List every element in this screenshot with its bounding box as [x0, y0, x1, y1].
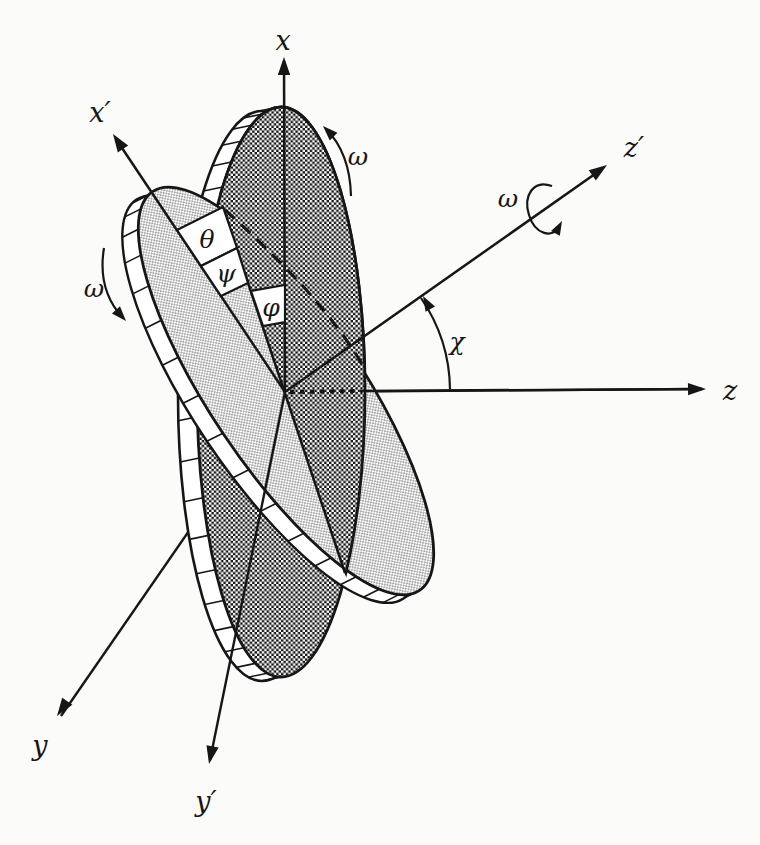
phi-angle-label: φ [262, 293, 280, 322]
z-prime-axis-label: z′ [623, 132, 644, 163]
y-prime-axis-arrowhead [203, 745, 219, 765]
y-prime-axis-label: y′ [194, 786, 216, 817]
x-axis-line [284, 61, 285, 392]
z-axis-line [360, 389, 702, 391]
z-axis-label: z [722, 375, 738, 406]
euler-angle-disk-figure: x x′ z′ z y y′ ω ω ω θ ψ φ χ [0, 0, 760, 845]
x-axis-arrowhead [278, 57, 290, 75]
x-prime-axis-label: x′ [89, 97, 110, 128]
omega-spin-axis-label: ω [498, 184, 518, 213]
x-prime-axis-arrowhead [108, 131, 128, 153]
chi-angle-label: χ [447, 327, 466, 356]
x-axis-label: x [275, 25, 290, 56]
omega-light-disk-label: ω [84, 274, 104, 303]
omega-dark-disk-label: ω [348, 142, 368, 171]
theta-angle-label: θ [199, 225, 214, 254]
figure-canvas: x x′ z′ z y y′ ω ω ω θ ψ φ χ [0, 0, 760, 845]
y-axis-label: y [31, 730, 48, 761]
z-axis-arrowhead [688, 383, 706, 396]
psi-angle-label: ψ [216, 259, 236, 288]
chi-angle-arc [421, 298, 450, 389]
